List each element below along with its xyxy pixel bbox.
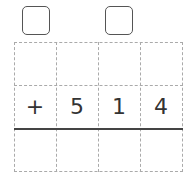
digit-cell: 4 (140, 85, 182, 128)
operator-cell: + (14, 85, 56, 128)
grid-line (182, 42, 183, 172)
cell-r0-c2[interactable] (98, 42, 140, 85)
carry-box-2[interactable] (105, 6, 133, 35)
cell-r0-c3[interactable] (140, 42, 182, 85)
digit-cell: 5 (56, 85, 98, 128)
digit-cell: 1 (98, 85, 140, 128)
cell-r0-c1[interactable] (56, 42, 98, 85)
answer-cell-3[interactable] (140, 129, 182, 172)
answer-cell-1[interactable] (56, 129, 98, 172)
carry-box-1[interactable] (22, 6, 50, 35)
answer-cell-0[interactable] (14, 129, 56, 172)
answer-cell-2[interactable] (98, 129, 140, 172)
cell-r0-c0[interactable] (14, 42, 56, 85)
addition-grid: + 5 1 4 (14, 42, 183, 172)
